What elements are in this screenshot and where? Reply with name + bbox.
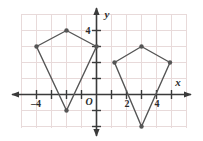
x-tick-label-two: 2	[125, 98, 130, 109]
coordinate-plane-svg: x y –4 2 4 4 O	[0, 0, 203, 141]
vertex-point	[94, 44, 98, 48]
vertex-point	[64, 108, 68, 112]
x-tick-label-neg-four: –4	[30, 98, 41, 109]
coordinate-plane-figure: x y –4 2 4 4 O	[0, 0, 203, 141]
vertex-point	[139, 124, 143, 128]
vertex-point	[168, 60, 172, 64]
y-axis-label: y	[103, 8, 110, 20]
vertex-point	[34, 44, 38, 48]
origin-label: O	[85, 96, 92, 107]
vertex-point	[64, 28, 68, 32]
y-tick-label-four: 4	[86, 25, 91, 36]
vertex-point	[112, 60, 116, 64]
vertex-point	[139, 44, 143, 48]
x-tick-label-four: 4	[155, 98, 160, 109]
x-axis-label: x	[174, 76, 181, 88]
plot-background	[0, 0, 203, 141]
